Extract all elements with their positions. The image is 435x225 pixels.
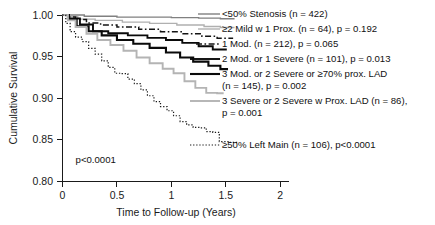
chart-annotations: p<0.0001 [76, 154, 116, 165]
legend-label: ≥2 Mild w 1 Prox. (n = 64), p = 0.192 [222, 23, 377, 34]
legend-label-continued: (n = 145), p = 0.002 [222, 80, 306, 91]
x-axis-title: Time to Follow-up (Years) [116, 206, 235, 218]
legend-label: ≥50% Left Main (n = 106), p<0.0001 [222, 139, 376, 150]
legend-label: 1 Mod. (n = 212), p = 0.065 [222, 38, 338, 49]
y-tick-label: 0.80 [33, 175, 54, 187]
legend-label: <50% Stenosis (n = 422) [222, 8, 328, 19]
legend-label: 3 Mod. or 2 Severe or ≥70% prox. LAD [222, 68, 387, 79]
x-tick-label: 1.5 [219, 189, 234, 201]
chart-canvas: 0.800.850.900.951.00 00.511.52 <50% Sten… [0, 0, 435, 225]
survival-chart: 0.800.850.900.951.00 00.511.52 <50% Sten… [0, 0, 435, 225]
y-tick-label: 0.85 [33, 133, 54, 145]
legend-label: 2 Mod. or 1 Severe (n = 101), p = 0.013 [222, 53, 391, 64]
x-tick-label: 2 [277, 189, 283, 201]
legend-label: 3 Severe or 2 Severe w Prox. LAD (n = 86… [222, 95, 407, 106]
legend-label-continued: p = 0.001 [222, 107, 262, 118]
y-axis-title: Cumulative Survival [7, 52, 19, 145]
y-tick-label: 0.95 [33, 50, 54, 62]
x-tick-label: 0.5 [110, 189, 125, 201]
y-tick-label: 0.90 [33, 92, 54, 104]
x-tick-label: 1 [168, 189, 174, 201]
x-tick-label: 0 [60, 189, 66, 201]
y-tick-label: 1.00 [33, 9, 54, 21]
overall-p-value: p<0.0001 [76, 154, 116, 165]
